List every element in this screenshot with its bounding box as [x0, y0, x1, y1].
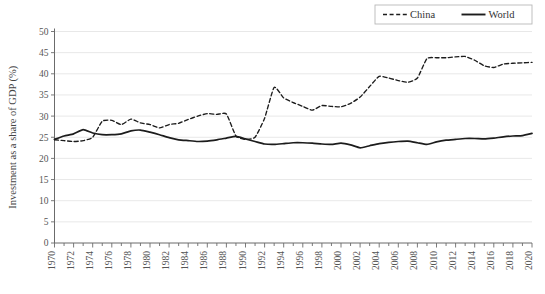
- x-axis-tick-label: 1980: [142, 251, 152, 270]
- y-axis-tick-label: 50: [39, 27, 49, 37]
- y-axis-tick-label: 15: [39, 175, 49, 185]
- y-axis-tick-label: 0: [44, 238, 49, 248]
- investment-share-gdp-line-chart: 05101520253035404550 1970197219741976197…: [0, 0, 545, 294]
- y-axis-tick-label: 10: [39, 196, 49, 206]
- series-line-world: [55, 130, 533, 148]
- chart-canvas: 05101520253035404550 1970197219741976197…: [0, 0, 545, 294]
- x-axis-tick-label: 1978: [123, 251, 133, 270]
- x-axis-tick-label: 1986: [199, 251, 209, 270]
- y-axis-tick-label: 20: [39, 154, 49, 164]
- x-axis-tick-label: 1976: [104, 251, 114, 270]
- x-axis-tick-label: 1996: [295, 251, 305, 270]
- x-axis-tick-label: 2002: [352, 251, 362, 270]
- x-axis-tick-label: 2006: [390, 251, 400, 270]
- x-axis-tick-label: 2008: [409, 251, 419, 270]
- legend-label-world: World: [489, 9, 516, 20]
- y-axis-ticks-group: 05101520253035404550: [39, 27, 55, 249]
- data-series-group: [55, 56, 533, 147]
- x-axis-tick-label: 2016: [486, 251, 496, 270]
- x-axis-tick-label: 1988: [218, 251, 228, 270]
- x-axis-tick-label: 1984: [180, 251, 190, 270]
- series-line-china: [55, 56, 533, 141]
- x-axis-ticks-group: 1970197219741976197819801982198419861988…: [47, 243, 535, 270]
- x-axis-tick-label: 2000: [333, 251, 343, 270]
- x-axis-tick-label: 1994: [276, 251, 286, 270]
- x-axis-tick-label: 1998: [314, 251, 324, 270]
- x-axis-tick-label: 1974: [85, 251, 95, 270]
- legend-label-china: China: [410, 9, 435, 20]
- y-axis-tick-label: 25: [39, 133, 49, 143]
- x-axis-tick-label: 1970: [47, 251, 57, 270]
- y-axis-tick-label: 45: [39, 48, 49, 58]
- y-axis-tick-label: 30: [39, 112, 49, 122]
- x-axis-tick-label: 2004: [371, 251, 381, 270]
- y-axis-tick-label: 40: [39, 69, 49, 79]
- x-axis-tick-label: 2018: [505, 251, 515, 270]
- x-axis-tick-label: 1990: [238, 251, 248, 270]
- x-axis-tick-label: 1972: [66, 251, 76, 270]
- x-axis-tick-label: 2020: [524, 251, 534, 270]
- x-axis-tick-label: 2010: [429, 251, 439, 270]
- x-axis-tick-label: 1992: [257, 251, 267, 270]
- y-axis-title: Investment as a share of GDP (%): [7, 65, 19, 209]
- x-axis-tick-label: 1982: [161, 251, 171, 270]
- x-axis-tick-label: 2012: [448, 251, 458, 270]
- y-axis-tick-label: 35: [39, 90, 49, 100]
- x-axis-tick-label: 2014: [467, 251, 477, 270]
- chart-legend: ChinaWorld: [375, 5, 532, 24]
- gridlines-group: [55, 32, 533, 222]
- y-axis-tick-label: 5: [44, 217, 49, 227]
